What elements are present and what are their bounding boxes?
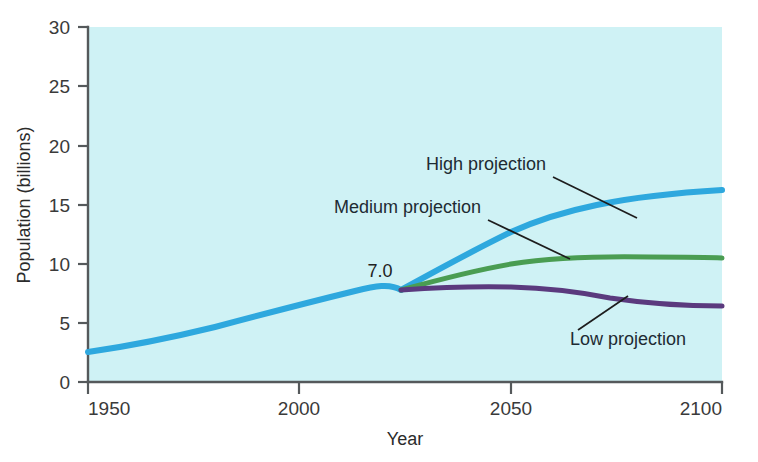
y-tick-label-10: 10: [49, 254, 70, 275]
y-tick-label-20: 20: [49, 136, 70, 157]
x-tick-label-1950: 1950: [88, 398, 130, 419]
y-tick-label-0: 0: [59, 372, 70, 393]
y-tick-label-5: 5: [59, 313, 70, 334]
branch-value-label: 7.0: [367, 261, 392, 281]
x-tick-label-2050: 2050: [490, 398, 532, 419]
y-axis-title: Population (billions): [14, 126, 34, 283]
y-tick-label-25: 25: [49, 76, 70, 97]
x-tick-label-2100: 2100: [680, 398, 722, 419]
y-tick-label-15: 15: [49, 195, 70, 216]
chart-svg: 30 25 20 15 10 5 0 1950 2000 2050 2100 P…: [0, 0, 758, 462]
population-projection-chart: 30 25 20 15 10 5 0 1950 2000 2050 2100 P…: [0, 0, 758, 462]
annotation-label-high-projection: High projection: [426, 154, 546, 174]
x-tick-label-2000: 2000: [278, 398, 320, 419]
annotation-label-medium-projection: Medium projection: [334, 197, 481, 217]
annotation-label-low-projection: Low projection: [570, 329, 686, 349]
y-tick-label-30: 30: [49, 17, 70, 38]
x-axis-title: Year: [387, 429, 423, 449]
